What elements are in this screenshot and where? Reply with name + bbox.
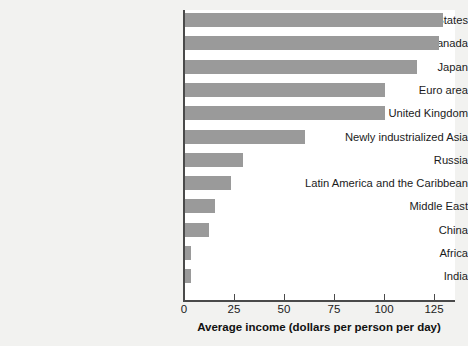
bar-category-label: Russia bbox=[292, 153, 468, 167]
bar-rect bbox=[185, 246, 191, 260]
bar-row: Newly industrialized Asia bbox=[0, 130, 468, 144]
bar-row: Euro area bbox=[0, 83, 468, 97]
bar-row: Latin America and the Caribbean bbox=[0, 176, 468, 190]
x-tick-mark bbox=[334, 294, 335, 301]
bar-rect bbox=[185, 60, 417, 74]
bar-category-label: India bbox=[292, 269, 468, 283]
bar-row: China bbox=[0, 223, 468, 237]
x-axis-line bbox=[183, 300, 455, 302]
x-tick-label: 75 bbox=[314, 303, 354, 315]
x-tick-label: 0 bbox=[164, 303, 204, 315]
bar-row: India bbox=[0, 269, 468, 283]
x-tick-mark bbox=[234, 294, 235, 301]
bar-category-label: Middle East bbox=[292, 199, 468, 213]
bar-rect bbox=[185, 106, 385, 120]
x-tick-label: 50 bbox=[264, 303, 304, 315]
bar-row: Russia bbox=[0, 153, 468, 167]
bar-row: Canada bbox=[0, 36, 468, 50]
x-tick-mark bbox=[384, 294, 385, 301]
bar-rect bbox=[185, 153, 243, 167]
bar-category-label: China bbox=[292, 223, 468, 237]
bar-rect bbox=[185, 36, 439, 50]
bar-rect bbox=[185, 176, 231, 190]
bar-chart-figure: United StatesCanadaJapanEuro areaUnited … bbox=[0, 0, 468, 346]
bar-rect bbox=[185, 223, 209, 237]
bar-row: Middle East bbox=[0, 199, 468, 213]
bar-category-label: Latin America and the Caribbean bbox=[292, 176, 468, 190]
bar-category-label: Newly industrialized Asia bbox=[292, 130, 468, 144]
bar-row: United Kingdom bbox=[0, 106, 468, 120]
x-tick-label: 100 bbox=[364, 303, 404, 315]
x-tick-label: 125 bbox=[414, 303, 454, 315]
bar-row: Africa bbox=[0, 246, 468, 260]
x-tick-label: 25 bbox=[214, 303, 254, 315]
bar-row: Japan bbox=[0, 60, 468, 74]
x-tick-mark bbox=[184, 294, 185, 301]
bar-category-label: Africa bbox=[292, 246, 468, 260]
x-tick-mark bbox=[284, 294, 285, 301]
bar-rect bbox=[185, 13, 443, 27]
bar-rect bbox=[185, 83, 385, 97]
x-axis-title: Average income (dollars per person per d… bbox=[183, 321, 455, 333]
bar-rect bbox=[185, 269, 191, 283]
x-tick-mark bbox=[434, 294, 435, 301]
bar-row: United States bbox=[0, 13, 468, 27]
bar-rect bbox=[185, 130, 305, 144]
bar-rect bbox=[185, 199, 215, 213]
